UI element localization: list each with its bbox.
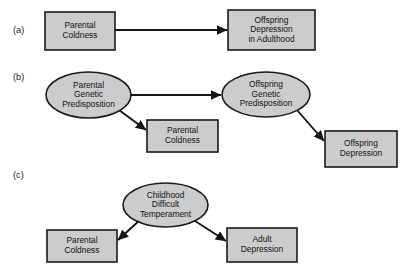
parental-genetic-predisposition-ellipse-text-line: Parental: [73, 80, 104, 90]
panel-labels-layer: (a)(b)(c): [13, 25, 24, 180]
diagram-canvas: ParentalColdnessOffspringDepressionin Ad…: [0, 0, 407, 277]
offspring-genetic-predisposition-ellipse: OffspringGeneticPredisposition: [222, 72, 310, 117]
offspring-depression-adulthood-box-text-line: Depression: [250, 24, 293, 34]
offspring-depression-adulthood-box: OffspringDepressionin Adulthood: [228, 10, 315, 50]
parental-genetic-predisposition-ellipse-text-line: Genetic: [74, 89, 103, 99]
causal-models-diagram: ParentalColdnessOffspringDepressionin Ad…: [0, 0, 407, 277]
offspring-depression-adulthood-box-text-line: in Adulthood: [248, 34, 294, 44]
childhood-difficult-temperament-ellipse-text-line: Childhood: [147, 190, 185, 200]
adult-depression-box-text-line: Adult: [252, 234, 272, 244]
parental-genetic-predisposition-ellipse: ParentalGeneticPredisposition: [46, 72, 131, 118]
arrow-offspring-genetic-to-offspring-depression: [297, 110, 324, 141]
offspring-depression-box-text-line: Depression: [340, 148, 383, 158]
parental-coldness-box-text-line: Coldness: [65, 245, 100, 255]
childhood-difficult-temperament-ellipse: ChildhoodDifficultTemperament: [123, 183, 208, 227]
panel-label-b: (b): [13, 72, 24, 82]
childhood-difficult-temperament-ellipse-text-line: Temperament: [140, 209, 192, 219]
childhood-difficult-temperament-ellipse-text-line: Difficult: [152, 199, 180, 209]
offspring-genetic-predisposition-ellipse-text-line: Offspring: [249, 79, 283, 89]
panel-label-c: (c): [13, 170, 24, 180]
nodes-layer: ParentalColdnessOffspringDepressionin Ad…: [45, 10, 397, 262]
parental-coldness-box-text-line: Parental: [167, 125, 198, 135]
parental-coldness-box-text-line: Parental: [66, 235, 97, 245]
offspring-genetic-predisposition-ellipse-text-line: Genetic: [252, 89, 281, 99]
arrow-temperament-to-adult-depression: [192, 219, 226, 241]
offspring-depression-box-text-line: Offspring: [344, 138, 378, 148]
parental-coldness-box-text-line: Parental: [64, 20, 95, 30]
parental-coldness-box-text-line: Coldness: [165, 135, 200, 145]
panel-label-a: (a): [13, 25, 24, 35]
parental-genetic-predisposition-ellipse-text-line: Predisposition: [62, 99, 115, 109]
adult-depression-box: AdultDepression: [227, 228, 297, 262]
parental-coldness-box: ParentalColdness: [45, 12, 115, 50]
parental-coldness-box: ParentalColdness: [47, 230, 117, 262]
parental-coldness-box: ParentalColdness: [147, 120, 218, 152]
offspring-genetic-predisposition-ellipse-text-line: Predisposition: [240, 98, 293, 108]
adult-depression-box-text-line: Depression: [241, 244, 284, 254]
offspring-depression-adulthood-box-text-line: Offspring: [255, 15, 289, 25]
offspring-depression-box: OffspringDepression: [325, 131, 397, 167]
parental-coldness-box-text-line: Coldness: [63, 30, 98, 40]
arrow-parental-genetic-to-parental-coldness: [119, 110, 146, 130]
